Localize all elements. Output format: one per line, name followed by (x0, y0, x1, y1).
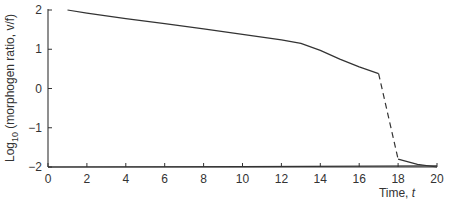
y-tick-label: −1 (28, 121, 42, 135)
x-tick-label: 16 (353, 172, 367, 186)
y-tick-label: 2 (35, 3, 42, 17)
series-line (379, 74, 399, 160)
x-tick-label: 20 (430, 172, 444, 186)
y-axis-title: Log10 (morphogen ratio, v/f) (3, 14, 20, 162)
y-tick-label: −2 (28, 160, 42, 174)
x-axis-title: Time, t (379, 186, 416, 200)
x-tick-label: 12 (275, 172, 289, 186)
x-tick-label: 14 (314, 172, 328, 186)
x-tick-label: 10 (236, 172, 250, 186)
axes: 02468101214161820210−1−2 (28, 3, 444, 186)
x-tick-label: 8 (200, 172, 207, 186)
y-tick-label: 0 (35, 82, 42, 96)
plot-area (48, 10, 437, 167)
x-tick-label: 6 (161, 172, 168, 186)
x-tick-label: 18 (391, 172, 405, 186)
y-tick-label: 1 (35, 42, 42, 56)
x-tick-label: 2 (84, 172, 91, 186)
x-tick-label: 4 (122, 172, 129, 186)
line-chart: 02468101214161820210−1−2 Time, t Log10 (… (0, 0, 455, 203)
x-tick-label: 0 (45, 172, 52, 186)
series-line (68, 10, 379, 74)
